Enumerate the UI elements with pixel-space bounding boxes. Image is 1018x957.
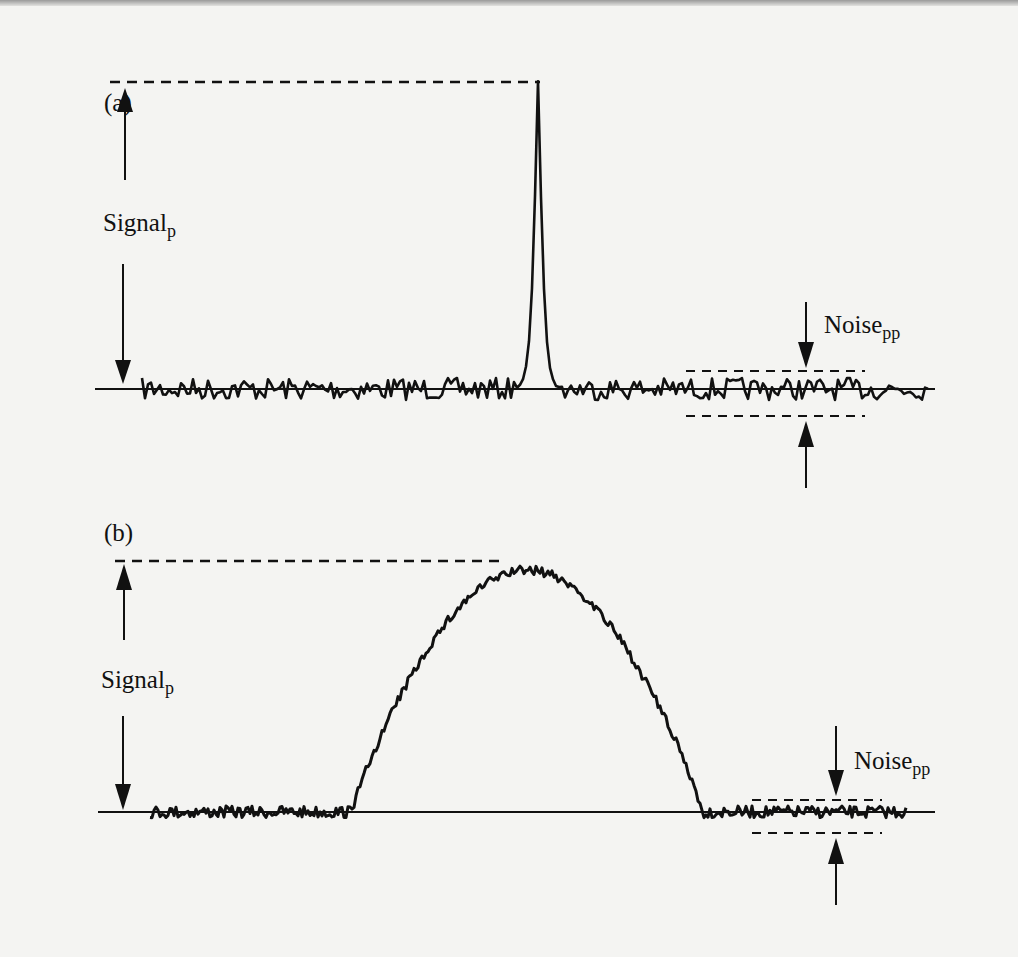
panel-b-trace (150, 566, 906, 818)
arrow-down-icon (798, 342, 814, 368)
arrow-up-icon (116, 564, 132, 590)
arrow-up-icon (117, 88, 133, 112)
panel-b (98, 561, 935, 905)
arrow-up-icon (828, 838, 844, 864)
arrow-down-icon (115, 784, 131, 810)
arrow-up-icon (798, 421, 814, 447)
figure-canvas (0, 0, 1018, 957)
panel-a (95, 81, 935, 488)
arrow-down-icon (115, 360, 131, 384)
arrow-down-icon (828, 770, 844, 796)
